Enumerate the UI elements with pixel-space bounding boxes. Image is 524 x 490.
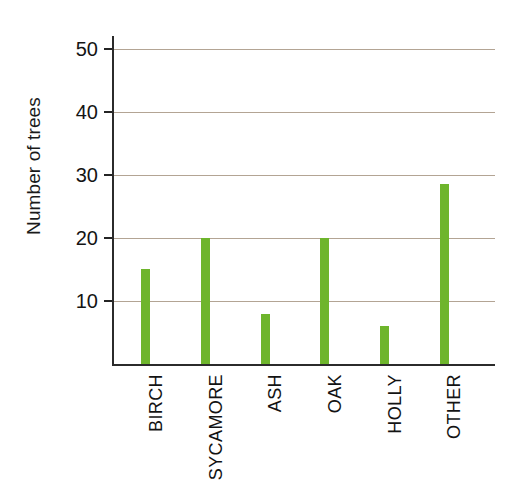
x-axis-label-oak: OAK bbox=[325, 374, 346, 413]
x-axis-label-sycamore: SYCAMORE bbox=[206, 374, 227, 480]
x-axis-label-ash: ASH bbox=[265, 374, 286, 412]
y-axis-tick-label: 50 bbox=[52, 37, 98, 60]
bar-ash bbox=[261, 314, 270, 364]
gridline bbox=[113, 238, 495, 239]
gridline bbox=[113, 112, 495, 113]
x-axis-label-birch: BIRCH bbox=[146, 374, 167, 432]
gridline bbox=[113, 175, 495, 176]
bar-oak bbox=[320, 238, 329, 364]
y-axis-tick-label: 30 bbox=[52, 163, 98, 186]
bar-holly bbox=[380, 326, 389, 364]
y-axis-tick-label: 10 bbox=[52, 289, 98, 312]
x-axis-label-holly: HOLLY bbox=[385, 374, 406, 434]
bar-other bbox=[440, 184, 449, 364]
x-axis-line bbox=[112, 364, 495, 366]
gridline bbox=[113, 301, 495, 302]
y-axis-line bbox=[112, 36, 114, 366]
bar-birch bbox=[141, 269, 150, 364]
gridline bbox=[113, 49, 495, 50]
y-axis-tick-label: 40 bbox=[52, 100, 98, 123]
y-axis-tick-label: 20 bbox=[52, 226, 98, 249]
y-axis-title: Number of trees bbox=[23, 66, 45, 266]
bar-sycamore bbox=[201, 238, 210, 364]
x-axis-label-other: OTHER bbox=[444, 374, 465, 439]
bar-chart: Number of trees 1020304050 BIRCHSYCAMORE… bbox=[0, 0, 524, 490]
